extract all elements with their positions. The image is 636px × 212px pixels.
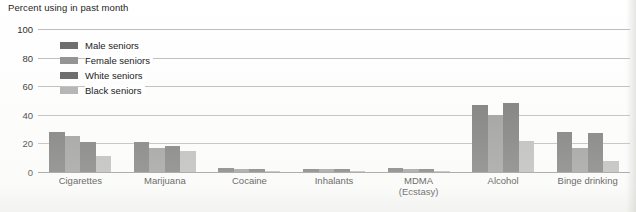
x-axis-category-label: Cigarettes (59, 175, 102, 186)
bar (96, 156, 112, 172)
bar (434, 171, 450, 172)
bar (234, 169, 250, 172)
x-axis-category-label-line: Cocaine (232, 175, 267, 186)
bar-group: Cocaine (218, 29, 280, 172)
gridline-0: 0 (38, 172, 630, 173)
legend-item: White seniors (60, 69, 153, 81)
bar (403, 169, 419, 172)
y-axis-tick-20: 20 (22, 138, 33, 149)
bars (303, 29, 365, 172)
legend-item-label: Male seniors (85, 40, 142, 51)
bars (218, 29, 280, 172)
bar (149, 148, 165, 172)
legend-swatch-icon (60, 87, 78, 94)
bar (334, 169, 350, 172)
x-axis-category-label-line: Alcohol (488, 175, 519, 186)
bar (249, 169, 265, 172)
x-axis-category-label-line: Cigarettes (59, 175, 102, 186)
bar (134, 142, 150, 172)
x-axis-category-label: Alcohol (488, 175, 519, 186)
bar-chart: Percent using in past month 020406080100… (0, 0, 636, 212)
bar (388, 168, 404, 172)
x-axis-category-label: Marijuana (144, 175, 186, 186)
bar (350, 171, 366, 172)
bar (588, 133, 604, 172)
bar (603, 161, 619, 172)
bar (218, 168, 234, 172)
legend-swatch-icon (60, 72, 78, 79)
bar-group: Alcohol (472, 29, 534, 172)
x-axis-category-label-line: (Ecstasy) (399, 186, 439, 197)
bar (265, 171, 281, 172)
legend-swatch-icon (60, 57, 78, 64)
bar (557, 132, 573, 172)
x-axis-category-label: MDMA(Ecstasy) (399, 175, 439, 197)
bar (472, 105, 488, 172)
bars (557, 29, 619, 172)
y-axis-tick-100: 100 (17, 24, 33, 35)
bar (488, 115, 504, 172)
chart-legend: Male seniorsFemale seniorsWhite seniorsB… (60, 39, 153, 96)
bar (65, 136, 81, 172)
x-axis-category-label: Inhalants (315, 175, 354, 186)
x-axis-category-label-line: Binge drinking (558, 175, 618, 186)
legend-item-label: White seniors (85, 70, 146, 81)
bar-group: Inhalants (303, 29, 365, 172)
y-axis-tick-80: 80 (22, 52, 33, 63)
bar (303, 169, 319, 172)
legend-item: Black seniors (60, 84, 153, 96)
y-axis-tick-60: 60 (22, 81, 33, 92)
x-axis-category-label-line: Inhalants (315, 175, 354, 186)
bar (503, 103, 519, 172)
bar-group: MDMA(Ecstasy) (388, 29, 450, 172)
legend-swatch-icon (60, 42, 78, 49)
bar (80, 142, 96, 172)
y-axis-title: Percent using in past month (8, 2, 128, 13)
x-axis-category-label-line: MDMA (399, 175, 439, 186)
x-axis-category-label: Cocaine (232, 175, 267, 186)
bar (165, 146, 181, 172)
bars (388, 29, 450, 172)
x-axis-category-label: Binge drinking (558, 175, 618, 186)
bar (180, 151, 196, 172)
legend-item: Female seniors (60, 54, 153, 66)
bar (419, 169, 435, 172)
bar (519, 141, 535, 172)
legend-item-label: Female seniors (85, 55, 153, 66)
y-axis-tick-0: 0 (28, 167, 33, 178)
x-axis-category-label-line: Marijuana (144, 175, 186, 186)
legend-item: Male seniors (60, 39, 153, 51)
bar-group: Binge drinking (557, 29, 619, 172)
bar (572, 148, 588, 172)
bars (472, 29, 534, 172)
bar (49, 132, 65, 172)
legend-item-label: Black seniors (85, 85, 145, 96)
y-axis-tick-40: 40 (22, 109, 33, 120)
bar (319, 169, 335, 172)
